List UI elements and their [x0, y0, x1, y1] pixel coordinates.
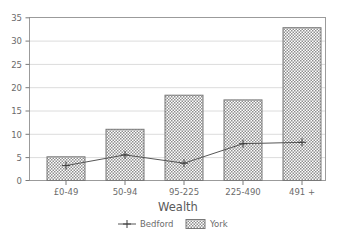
ytick-label-10: 10: [11, 130, 22, 140]
xtick-label-1: 50-94: [113, 187, 138, 197]
legend-label-bedford: Bedford: [140, 219, 173, 229]
xtick-label-4: 491 +: [289, 187, 315, 197]
legend-swatch-icon: [186, 220, 205, 229]
xtick-label-3: 225-490: [225, 187, 261, 197]
ytick-label-25: 25: [11, 60, 22, 70]
chart-container: 35 30 25 20 15 10 5 0: [0, 0, 346, 241]
ytick-label-20: 20: [11, 83, 22, 93]
ytick-label-5: 5: [17, 153, 22, 163]
bar-york-4: [283, 28, 321, 181]
xtick-label-2: 95-225: [169, 187, 199, 197]
legend-label-york: York: [209, 219, 228, 229]
ytick-label-15: 15: [11, 106, 22, 116]
ytick-label-35: 35: [11, 13, 22, 23]
ytick-label-0: 0: [17, 176, 22, 186]
wealth-distribution-chart: 35 30 25 20 15 10 5 0: [0, 0, 346, 241]
ytick-label-30: 30: [11, 36, 22, 46]
x-axis-title: Wealth: [158, 200, 198, 214]
xtick-label-0: £0-49: [54, 187, 79, 197]
bar-york-2: [165, 95, 203, 180]
